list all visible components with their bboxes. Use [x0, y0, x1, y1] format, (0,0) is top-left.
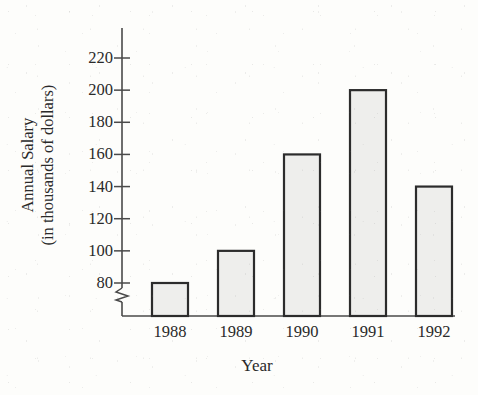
- bar-1992: [416, 187, 452, 316]
- bar-chart: Annual Salary (in thousands of dollars) …: [0, 0, 478, 395]
- bars: [152, 90, 452, 316]
- axis-break-zigzag-icon: [116, 288, 128, 302]
- bar-1990: [284, 154, 320, 316]
- bar-1988: [152, 283, 188, 316]
- plot-area: [0, 0, 478, 395]
- bar-1991: [350, 90, 386, 316]
- bar-1989: [218, 251, 254, 316]
